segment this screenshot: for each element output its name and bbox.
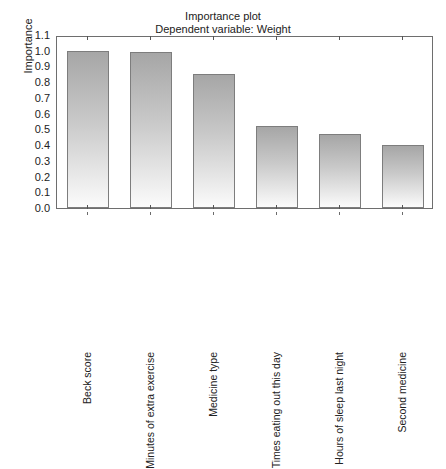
y-axis-tick-label: 0.3 [35, 155, 50, 167]
x-axis-category-label: Beck score [82, 352, 93, 404]
x-axis-category-label: Times eating out this day [270, 352, 281, 468]
bar [382, 145, 424, 208]
x-axis-category-label: Minutes of extra exercise [145, 352, 156, 469]
x-axis-category-labels: Beck scoreMinutes of extra exerciseMedic… [56, 212, 433, 358]
page-title: Importance plot [0, 10, 446, 23]
y-axis-tick-label: 0.5 [35, 123, 50, 135]
x-axis-top-tick-mark [150, 36, 151, 40]
chart-subtitle: Dependent variable: Weight [0, 23, 446, 36]
y-axis-tick-label: 0.4 [35, 139, 50, 151]
bar [193, 74, 235, 208]
x-axis-category-label: Second medicine [396, 352, 407, 433]
plot-frame [56, 36, 433, 209]
bar [130, 52, 172, 208]
x-axis-top-tick-mark [213, 36, 214, 40]
y-axis-tick-label: 0.0 [35, 202, 50, 214]
y-axis-tick-label: 1.0 [35, 45, 50, 57]
bar [256, 126, 298, 208]
bar [319, 134, 361, 208]
x-axis-top-tick-mark [276, 36, 277, 40]
bar [67, 51, 109, 208]
y-axis-tick-label: 0.1 [35, 186, 50, 198]
y-axis-tick-label: 0.2 [35, 171, 50, 183]
x-axis-tick-mark [213, 205, 214, 209]
y-axis-tick-label: 0.6 [35, 108, 50, 120]
x-axis-tick-mark [276, 205, 277, 209]
y-axis-title: Importance [22, 0, 34, 106]
y-axis-tick-label: 1.1 [35, 29, 50, 41]
x-axis-category-label: Medicine type [208, 352, 219, 417]
x-axis-category-label: Hours of sleep last night [333, 352, 344, 465]
y-axis-tick-label: 0.8 [35, 76, 50, 88]
y-axis-tick-label: 0.7 [35, 92, 50, 104]
y-axis-tick-label: 0.9 [35, 60, 50, 72]
x-axis-tick-mark [87, 205, 88, 209]
x-axis-tick-mark [150, 205, 151, 209]
x-axis-top-tick-mark [402, 36, 403, 40]
x-axis-tick-mark [339, 205, 340, 209]
plot-area [57, 37, 432, 208]
x-axis-tick-mark [402, 205, 403, 209]
x-axis-top-tick-mark [87, 36, 88, 40]
chart-title-block: Importance plot Dependent variable: Weig… [0, 10, 446, 36]
x-axis-top-tick-mark [339, 36, 340, 40]
